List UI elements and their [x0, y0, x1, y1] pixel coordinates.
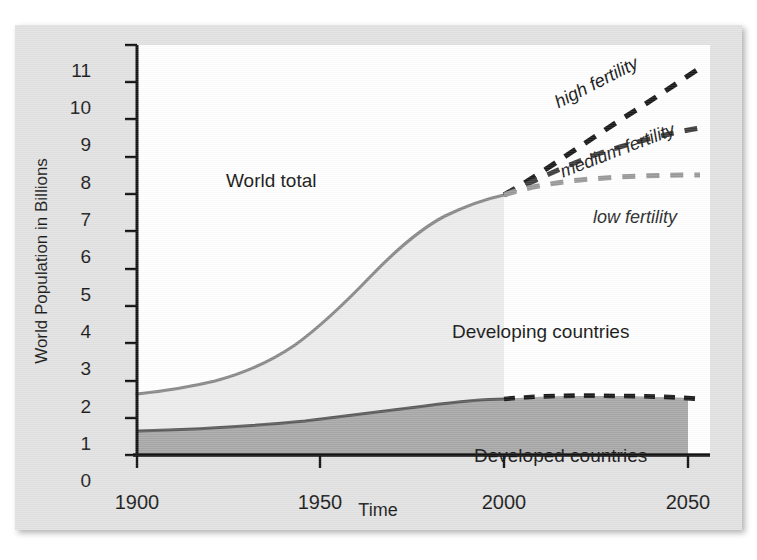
- y-axis-ticks: [125, 45, 137, 455]
- figure-panel: 11 10 9 8 7 6 5 4 3 2 1 0 1900 1950 2000…: [15, 25, 742, 530]
- developing-countries-label: Developing countries: [452, 321, 629, 343]
- low-fertility-label: low fertility: [593, 207, 677, 228]
- world-total-label: World total: [226, 170, 316, 192]
- developed-countries-label: Developed countries: [474, 445, 647, 467]
